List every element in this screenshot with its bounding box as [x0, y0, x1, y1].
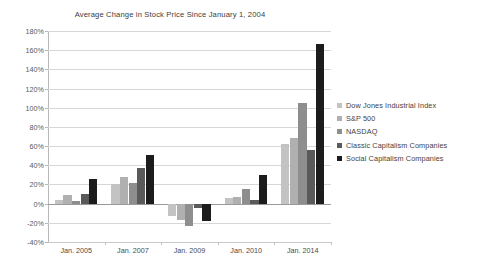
- y-tick-mark: [45, 146, 48, 147]
- bar: [137, 168, 145, 203]
- x-axis-label: Jan. 2005: [61, 246, 93, 255]
- legend-swatch-icon: [337, 103, 342, 108]
- bar: [316, 44, 324, 203]
- bar: [55, 200, 63, 204]
- bar: [72, 201, 80, 204]
- stock-price-bar-chart: Average Change in Stock Price Since Janu…: [0, 0, 489, 269]
- y-tick-label: 40%: [10, 161, 44, 170]
- y-tick-mark: [45, 127, 48, 128]
- bar: [111, 184, 119, 203]
- x-tick-mark: [161, 242, 162, 245]
- bar: [225, 198, 233, 204]
- bar: [146, 155, 154, 204]
- y-tick-label: -20%: [10, 218, 44, 227]
- legend-item-label: Social Capitalism Companies: [346, 154, 444, 163]
- bar: [281, 144, 289, 203]
- x-tick-mark: [218, 242, 219, 245]
- y-tick-mark: [45, 31, 48, 32]
- bar: [177, 204, 185, 220]
- y-tick-label: 120%: [10, 84, 44, 93]
- bar: [298, 103, 306, 204]
- legend-item[interactable]: Social Capitalism Companies: [337, 152, 487, 165]
- bar: [307, 150, 315, 204]
- legend-swatch-icon: [337, 116, 342, 121]
- legend-item-label: Classic Capitalism Companies: [346, 141, 447, 150]
- legend-item[interactable]: NASDAQ: [337, 125, 487, 138]
- x-tick-mark: [274, 242, 275, 245]
- bar: [233, 197, 241, 204]
- legend-item-label: S&P 500: [346, 114, 375, 123]
- bar: [250, 200, 258, 204]
- plot-area: 180%160%140%120%100%80%60%40%20%0%-20%-4…: [48, 31, 331, 242]
- bar: [63, 195, 71, 204]
- bar: [194, 204, 202, 209]
- y-tick-label: 100%: [10, 103, 44, 112]
- y-tick-mark: [45, 89, 48, 90]
- bar-group: [111, 31, 154, 242]
- legend-item[interactable]: Classic Capitalism Companies: [337, 139, 487, 152]
- y-axis-line: [48, 31, 49, 242]
- y-tick-mark: [45, 69, 48, 70]
- bar: [81, 194, 89, 204]
- y-tick-label: 160%: [10, 46, 44, 55]
- bar: [129, 183, 137, 203]
- bar-group: [55, 31, 98, 242]
- y-tick-label: 20%: [10, 180, 44, 189]
- y-tick-label: 180%: [10, 27, 44, 36]
- y-tick-label: -40%: [10, 238, 44, 247]
- y-tick-mark: [45, 108, 48, 109]
- chart-legend: Dow Jones Industrial IndexS&P 500NASDAQC…: [337, 99, 487, 165]
- bar: [290, 138, 298, 203]
- axis-bottom-line: [48, 242, 331, 243]
- y-tick-mark: [45, 165, 48, 166]
- x-tick-mark: [105, 242, 106, 245]
- bar: [259, 175, 267, 204]
- bar-group: [225, 31, 268, 242]
- legend-item-label: Dow Jones Industrial Index: [346, 101, 436, 110]
- x-axis-label: Jan. 2010: [230, 246, 262, 255]
- y-tick-mark: [45, 223, 48, 224]
- x-axis-label: Jan. 2009: [174, 246, 206, 255]
- y-tick-mark: [45, 50, 48, 51]
- y-tick-label: 80%: [10, 122, 44, 131]
- legend-swatch-icon: [337, 129, 342, 134]
- y-tick-label: 140%: [10, 65, 44, 74]
- chart-title: Average Change in Stock Price Since Janu…: [0, 10, 340, 19]
- bar: [168, 204, 176, 216]
- y-tick-mark: [45, 184, 48, 185]
- bar: [120, 177, 128, 204]
- legend-item[interactable]: S&P 500: [337, 112, 487, 125]
- legend-swatch-icon: [337, 156, 342, 161]
- x-axis-label: Jan. 2007: [117, 246, 149, 255]
- legend-item[interactable]: Dow Jones Industrial Index: [337, 99, 487, 112]
- bar-group: [168, 31, 211, 242]
- bar: [185, 204, 193, 226]
- bar: [202, 204, 210, 221]
- y-tick-label: 0%: [10, 199, 44, 208]
- x-tick-mark: [331, 242, 332, 245]
- x-axis-label: Jan. 2014: [287, 246, 319, 255]
- bar: [89, 179, 97, 204]
- bar: [242, 189, 250, 203]
- y-tick-label: 60%: [10, 142, 44, 151]
- legend-swatch-icon: [337, 143, 342, 148]
- legend-item-label: NASDAQ: [346, 127, 377, 136]
- bar-group: [281, 31, 324, 242]
